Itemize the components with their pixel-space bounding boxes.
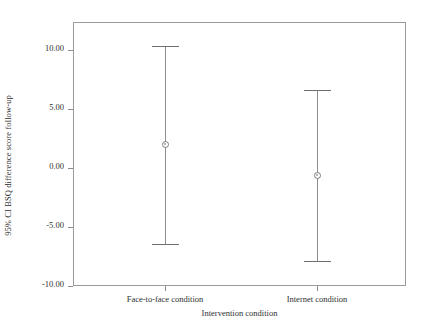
- y-tick-label: 0.00: [49, 161, 64, 171]
- y-tick: 10.00: [0, 50, 73, 51]
- error-bar-upper-cap: [304, 90, 331, 91]
- error-bar-lower-cap: [304, 261, 331, 262]
- error-bar-upper-cap: [152, 46, 179, 47]
- mean-marker: [162, 141, 169, 148]
- x-tick-mark: [165, 286, 166, 291]
- y-tick: -10.00: [0, 286, 73, 287]
- y-tick: 5.00: [0, 109, 73, 110]
- y-tick-mark: [68, 168, 73, 169]
- mean-marker: [314, 172, 321, 179]
- chart-figure: 95% CI BSQ difference score follow-up 10…: [0, 0, 430, 331]
- y-tick: 0.00: [0, 168, 73, 169]
- y-tick-label: 10.00: [45, 43, 64, 53]
- x-axis-title: Intervention condition: [73, 308, 406, 318]
- y-tick-label: -10.00: [42, 279, 64, 289]
- y-tick-mark: [68, 227, 73, 228]
- y-tick-mark: [68, 286, 73, 287]
- y-tick-label: 5.00: [49, 102, 64, 112]
- y-tick-mark: [68, 50, 73, 51]
- x-tick-label: Internet condition: [287, 294, 348, 304]
- x-tick-mark: [317, 286, 318, 291]
- error-bar-lower-cap: [152, 244, 179, 245]
- x-tick-label: Face-to-face condition: [127, 294, 204, 304]
- y-tick: -5.00: [0, 227, 73, 228]
- y-tick-label: -5.00: [46, 220, 64, 230]
- y-tick-mark: [68, 109, 73, 110]
- plot-area: [73, 22, 406, 286]
